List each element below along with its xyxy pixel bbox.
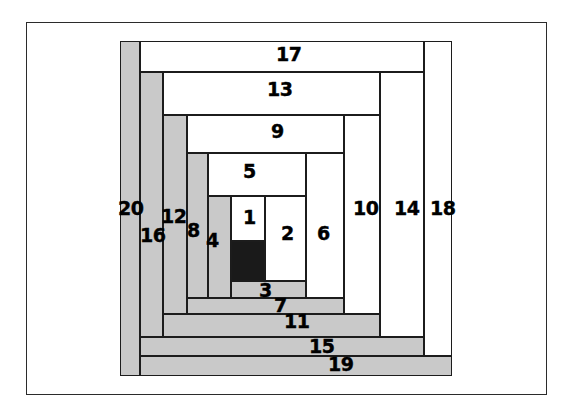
quilt-piece-16	[140, 72, 163, 337]
quilt-piece-6	[306, 153, 344, 298]
quilt-piece-7	[187, 298, 344, 314]
center-dark-square	[231, 241, 265, 281]
quilt-piece-20	[120, 41, 140, 376]
quilt-piece-1	[231, 196, 265, 241]
quilt-piece-10	[344, 115, 380, 314]
quilt-piece-15	[140, 337, 424, 356]
quilt-piece-19	[140, 356, 452, 376]
quilt-piece-8	[187, 153, 208, 298]
quilt-piece-14	[380, 72, 424, 337]
quilt-piece-17	[140, 41, 424, 72]
quilt-piece-5	[208, 153, 306, 196]
log-cabin-block	[0, 0, 563, 417]
quilt-piece-2	[265, 196, 306, 281]
quilt-piece-13	[163, 72, 380, 115]
quilt-piece-12	[163, 115, 187, 314]
quilt-piece-11	[163, 314, 380, 337]
quilt-piece-3	[231, 281, 306, 298]
quilt-block-diagram-screenshot: 1713951261014182016128437111519	[0, 0, 563, 417]
quilt-piece-4	[208, 196, 231, 298]
quilt-piece-18	[424, 41, 452, 356]
quilt-piece-9	[187, 115, 344, 153]
